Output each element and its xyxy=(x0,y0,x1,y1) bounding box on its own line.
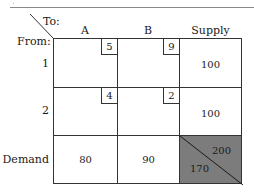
from-label: From: xyxy=(17,36,51,48)
cell-totals: 200 170 xyxy=(179,135,242,184)
row-header-2: 2 xyxy=(42,105,49,117)
cell-1-supply: 100 xyxy=(179,38,242,88)
cell-2-b: 2 xyxy=(117,87,180,136)
row-header-1: 1 xyxy=(42,58,49,70)
demand-value-b: 90 xyxy=(118,154,179,165)
cell-2-a: 4 xyxy=(53,87,118,136)
column-header-supply: Supply xyxy=(179,25,242,37)
totals-diagonal-line xyxy=(180,136,243,185)
cost-box-1-a: 5 xyxy=(101,38,118,55)
total-supply-value: 200 xyxy=(212,145,231,156)
column-header-a: A xyxy=(53,25,117,37)
cost-box-1-b: 9 xyxy=(163,38,180,55)
transportation-table: 5 9 100 4 2 100 80 90 200 170 xyxy=(53,38,242,184)
supply-value-2: 100 xyxy=(180,108,241,119)
cell-demand-a: 80 xyxy=(53,135,118,184)
cost-box-2-b: 2 xyxy=(163,87,180,104)
speck xyxy=(13,3,14,4)
cell-demand-b: 90 xyxy=(117,135,180,184)
total-demand-value: 170 xyxy=(190,163,209,174)
demand-value-a: 80 xyxy=(54,154,117,165)
cell-2-supply: 100 xyxy=(179,87,242,136)
supply-value-1: 100 xyxy=(180,59,241,70)
cell-1-a: 5 xyxy=(53,38,118,88)
cell-1-b: 9 xyxy=(117,38,180,88)
row-header-demand: Demand xyxy=(3,154,49,166)
top-rule xyxy=(10,7,254,8)
cost-box-2-a: 4 xyxy=(101,87,118,104)
column-header-b: B xyxy=(117,25,179,37)
